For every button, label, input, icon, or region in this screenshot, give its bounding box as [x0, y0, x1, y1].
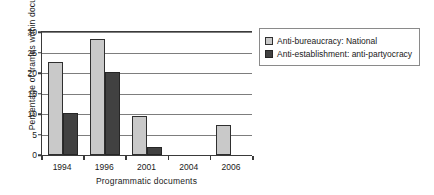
legend-item: Anti-bureaucracy: National [265, 34, 412, 47]
x-axis-ticks: 19941996200120042006 [41, 156, 252, 178]
y-tick-label: 30 [28, 27, 37, 37]
x-axis-title: Programmatic documents [41, 176, 252, 186]
y-tick-label: 0 [32, 150, 37, 160]
legend-swatch-icon [265, 37, 273, 45]
x-tick: 1996 [83, 156, 125, 178]
x-tick: 2001 [125, 156, 167, 178]
x-tick-mark [168, 156, 170, 160]
bar[interactable] [132, 116, 147, 155]
legend-item: Anti-establishment: anti-partyocracy [265, 47, 412, 60]
x-tick-mark [83, 156, 85, 160]
plot-area: 051015202530 [41, 31, 252, 156]
bar-chart-figure: Percentage of frames within documents 05… [0, 0, 434, 195]
x-tick-label: 1996 [95, 162, 114, 172]
y-tick-label: 15 [28, 89, 37, 99]
bar-group [126, 32, 168, 155]
bar[interactable] [216, 125, 231, 155]
bar-group [84, 32, 126, 155]
legend-label: Anti-bureaucracy: National [277, 36, 377, 46]
y-tick-label: 20 [28, 68, 37, 78]
bar-groups [42, 32, 252, 155]
x-tick-mark [41, 156, 43, 160]
legend-swatch-icon [265, 50, 273, 58]
x-tick: 1994 [41, 156, 83, 178]
y-tick-label: 10 [28, 109, 37, 119]
bar-group [168, 32, 210, 155]
x-tick-label: 2004 [179, 162, 198, 172]
bar[interactable] [48, 62, 63, 155]
legend-label: Anti-establishment: anti-partyocracy [277, 49, 412, 59]
bar-group [42, 32, 84, 155]
x-tick-mark [125, 156, 127, 160]
x-tick-mark [210, 156, 212, 160]
x-tick-label: 2006 [221, 162, 240, 172]
bar[interactable] [147, 147, 162, 155]
y-tick-label: 5 [32, 130, 37, 140]
x-tick-label: 2001 [137, 162, 156, 172]
bar[interactable] [63, 113, 78, 155]
bar-group [210, 32, 252, 155]
x-tick-label: 1994 [53, 162, 72, 172]
x-tick: 2004 [168, 156, 210, 178]
x-tick: 2006 [210, 156, 252, 178]
bar[interactable] [90, 39, 105, 155]
y-tick-label: 25 [28, 48, 37, 58]
x-tick-mark [252, 156, 254, 160]
bar[interactable] [105, 72, 120, 155]
legend: Anti-bureaucracy: National Anti-establis… [259, 28, 420, 66]
